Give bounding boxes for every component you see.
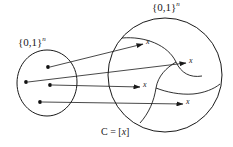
domain-point-3 bbox=[48, 83, 52, 87]
domain-set-exponent: n bbox=[42, 35, 46, 43]
codomain-set-text: {0,1} bbox=[152, 1, 176, 13]
domain-set-text: {0,1} bbox=[18, 36, 42, 48]
arrow-4 bbox=[42, 102, 183, 104]
codomain-set-exponent: n bbox=[176, 0, 180, 8]
codomain-set-circle bbox=[108, 18, 222, 132]
domain-points bbox=[24, 65, 52, 104]
equivalence-class-suffix: ] bbox=[126, 126, 129, 137]
arrow-2 bbox=[28, 63, 186, 82]
diagram-canvas bbox=[0, 0, 233, 147]
codomain-set-label: {0,1}n bbox=[152, 1, 180, 13]
image-label-3: x bbox=[143, 81, 147, 89]
image-label-1: x bbox=[146, 38, 150, 46]
domain-set-label: {0,1}n bbox=[18, 36, 46, 48]
math-diagram: {0,1}n {0,1}n C = [x] x x x x bbox=[0, 0, 233, 147]
domain-point-1 bbox=[46, 65, 50, 69]
image-label-2: x bbox=[189, 57, 193, 65]
equivalence-class-label: C = [x] bbox=[101, 127, 129, 137]
domain-point-4 bbox=[38, 100, 42, 104]
domain-point-2 bbox=[24, 80, 28, 84]
image-label-4: x bbox=[186, 98, 190, 106]
equivalence-class-prefix: C = [ bbox=[101, 126, 122, 137]
arrow-3 bbox=[52, 85, 140, 87]
equivalence-class-partitions bbox=[114, 38, 220, 123]
partition-curve-3 bbox=[156, 84, 220, 94]
